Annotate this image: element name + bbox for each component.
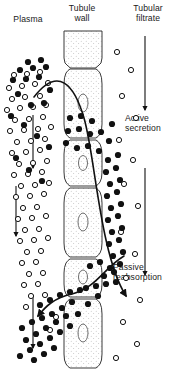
free-molecule-circle: [34, 204, 39, 209]
free-molecule-circle: [37, 147, 42, 152]
free-molecule-circle: [37, 93, 42, 98]
bound-molecule-dot: [23, 76, 29, 82]
bound-molecule-dot: [75, 311, 81, 317]
bound-molecule-dot: [46, 144, 52, 150]
bound-molecule-dot: [97, 259, 103, 265]
bound-molecule-dot: [115, 213, 121, 219]
free-molecule-circle: [46, 180, 51, 185]
free-molecule-circle: [27, 193, 32, 198]
bound-molecule-dot: [98, 129, 104, 135]
free-molecule-circle: [11, 72, 16, 77]
bound-molecule-dot: [118, 201, 124, 207]
free-molecule-circle: [35, 126, 40, 131]
free-molecule-circle: [31, 237, 36, 242]
bound-molecule-dot: [87, 263, 93, 269]
tubule-cell: [64, 188, 102, 257]
free-molecule-circle: [134, 341, 139, 346]
bound-molecule-dot: [69, 299, 75, 305]
free-molecule-circle: [38, 248, 43, 253]
bound-molecule-dot: [34, 133, 40, 139]
bound-molecule-dot: [25, 59, 31, 65]
free-molecule-circle: [24, 249, 29, 254]
free-molecule-circle: [24, 71, 29, 76]
free-molecule-circle: [20, 205, 25, 210]
bound-molecule-dot: [96, 148, 102, 154]
free-molecule-circle: [32, 81, 37, 86]
bound-molecule-dot: [103, 281, 109, 287]
free-molecule-circle: [113, 355, 118, 360]
free-molecule-circle: [21, 282, 26, 287]
bound-molecule-dot: [113, 165, 119, 171]
bound-molecule-dot: [109, 229, 115, 235]
bound-molecule-dot: [105, 157, 111, 163]
free-molecule-circle: [14, 139, 19, 144]
free-molecule-circle: [18, 183, 23, 188]
bound-molecule-dot: [67, 115, 73, 121]
bound-molecule-dot: [107, 181, 113, 187]
bound-molecule-dot: [65, 128, 71, 134]
tubule-cell: [64, 299, 102, 368]
bound-molecule-dot: [104, 193, 110, 199]
bound-molecule-dot: [17, 67, 23, 73]
bound-molecule-dot: [17, 353, 23, 359]
bound-molecule-dot: [8, 113, 14, 119]
bound-molecule-dot: [47, 335, 53, 341]
bound-molecule-dot: [108, 205, 114, 211]
free-molecule-circle: [9, 150, 14, 155]
free-molecule-circle: [26, 116, 31, 121]
bound-molecule-dot: [89, 118, 95, 124]
bound-molecule-dot: [31, 357, 37, 363]
bound-molecule-dot: [59, 305, 65, 311]
bound-molecule-dot: [109, 121, 115, 127]
free-molecule-circle: [114, 49, 119, 54]
bound-molecule-dot: [41, 100, 47, 106]
free-molecule-circle: [29, 215, 34, 220]
free-molecule-circle: [11, 172, 16, 177]
free-molecule-circle: [19, 260, 24, 265]
bound-molecule-dot: [26, 167, 32, 173]
bound-molecule-dot: [19, 325, 25, 331]
bound-molecule-dot: [51, 345, 57, 351]
free-molecule-circle: [28, 138, 33, 143]
bound-molecule-dot: [93, 283, 99, 289]
free-molecule-circle: [119, 93, 124, 98]
bound-molecule-dot: [105, 217, 111, 223]
bound-molecule-dot: [74, 145, 80, 151]
free-molecule-circle: [135, 203, 140, 208]
bound-molecule-dot: [23, 337, 29, 343]
free-molecule-circle: [43, 213, 48, 218]
bound-molecule-dot: [76, 126, 82, 132]
free-molecule-circle: [137, 297, 142, 302]
bound-molecule-dot: [63, 140, 69, 146]
bound-molecule-dot: [43, 325, 49, 331]
bound-molecule-dot: [85, 301, 91, 307]
free-molecule-circle: [23, 304, 28, 309]
bound-molecule-dot: [15, 91, 21, 97]
free-molecule-circle: [128, 67, 133, 72]
free-molecule-circle: [30, 160, 35, 165]
bound-molecule-dot: [37, 341, 43, 347]
bound-molecule-dot: [117, 177, 123, 183]
bound-molecule-dot: [28, 102, 34, 108]
free-molecule-circle: [9, 96, 14, 101]
free-molecule-circle: [37, 69, 42, 74]
bound-molecule-dot: [43, 64, 49, 70]
free-molecule-circle: [41, 191, 46, 196]
free-molecule-circle: [23, 149, 28, 154]
bound-molecule-dot: [119, 225, 125, 231]
free-molecule-circle: [16, 161, 21, 166]
free-molecule-circle: [4, 107, 9, 112]
free-molecule-circle: [45, 235, 50, 240]
bound-molecule-dot: [63, 313, 69, 319]
tubule-cell: [64, 31, 102, 68]
tubule-cell: [64, 140, 102, 186]
free-molecule-circle: [48, 124, 53, 129]
free-molecule-circle: [36, 226, 41, 231]
free-molecule-circle: [42, 292, 47, 297]
bound-molecule-dot: [37, 302, 43, 308]
tubule-epithelial-cells: [64, 31, 102, 368]
bound-molecule-dot: [57, 329, 63, 335]
free-molecule-circle: [22, 227, 27, 232]
free-molecule-circle: [40, 114, 45, 119]
tubular-transport-diagram: Plasma Tubule wall Tubular filtrate Acti…: [0, 0, 179, 373]
